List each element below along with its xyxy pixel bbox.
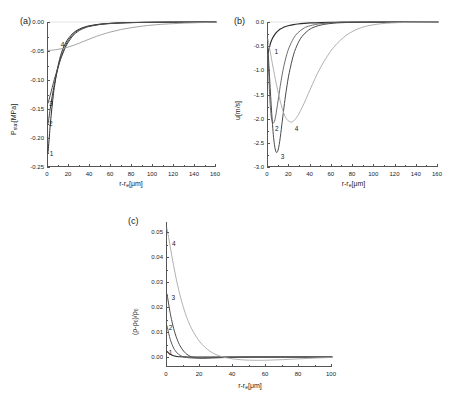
panel-c-ytick-minor bbox=[166, 270, 168, 271]
panel-a-xtick-minor bbox=[100, 165, 101, 167]
panel-b-series-3 bbox=[268, 22, 438, 153]
panel-a-xtick-label: 140 bbox=[189, 171, 199, 177]
panel-a-ytick-label: -0.20 bbox=[21, 135, 44, 141]
panel-b-xtick-minor bbox=[278, 165, 279, 167]
panel-a-series-1 bbox=[48, 22, 216, 152]
panel-b-xtick-minor bbox=[405, 165, 406, 167]
panel-b-xtick-mark bbox=[373, 164, 374, 167]
panel-c-xlabel: r-re[μm] bbox=[165, 382, 335, 390]
panel-a-ytick-label: -0.25 bbox=[21, 164, 44, 170]
panel-c-xtick-label: 0 bbox=[164, 371, 167, 377]
panel-a-ytick-minor bbox=[47, 95, 49, 96]
panel-a-xtick-minor bbox=[205, 165, 206, 167]
panel-a-xtick-mark bbox=[152, 164, 153, 167]
panel-b-xtick-label: 20 bbox=[285, 171, 292, 177]
panel-b: (b) u[m/s] r-re[μm] 0.0-0.5-1.0-1.5-2.0-… bbox=[226, 0, 453, 200]
panel-b-xtick-mark bbox=[310, 164, 311, 167]
panel-b-xtick-label: 100 bbox=[368, 171, 378, 177]
panel-b-xtick-minor bbox=[341, 165, 342, 167]
panel-c-ytick-mark bbox=[166, 282, 169, 283]
panel-b-xtick-mark bbox=[267, 164, 268, 167]
panel-a-xtick-minor bbox=[121, 165, 122, 167]
panel-b-ytick-mark bbox=[267, 167, 270, 168]
panel-b-xtick-label: 120 bbox=[389, 171, 399, 177]
panel-a-series-2 bbox=[48, 22, 216, 123]
panel-b-curve-label-2: 2 bbox=[275, 125, 279, 132]
panel-a-ytick-mark bbox=[47, 80, 50, 81]
panel-c-series-1 bbox=[167, 352, 332, 358]
panel-b-xtick-label: 60 bbox=[327, 171, 334, 177]
panel-c-ytick-mark bbox=[166, 257, 169, 258]
panel-c-curves bbox=[167, 222, 332, 367]
panel-b-xtick-mark bbox=[331, 164, 332, 167]
panel-a-xtick-minor bbox=[79, 165, 80, 167]
panel-a: (a) Pstat[MPa] r-re[μm] 0.00-0.05-0.10-0… bbox=[0, 0, 226, 200]
panel-b-ytick-minor bbox=[267, 58, 269, 59]
panel-b-ytick-label: -2.5 bbox=[241, 140, 264, 146]
panel-a-xtick-label: 40 bbox=[86, 171, 93, 177]
panel-b-xlabel: r-re[μm] bbox=[266, 180, 441, 188]
panel-c-xtick-mark bbox=[166, 364, 167, 367]
panel-a-curves bbox=[48, 22, 216, 167]
panel-b-ytick-label: -3.0 bbox=[241, 164, 264, 170]
panel-b-curves bbox=[268, 22, 438, 167]
panel-a-xtick-mark bbox=[68, 164, 69, 167]
panel-b-xtick-minor bbox=[299, 165, 300, 167]
panel-b-curve-label-1: 1 bbox=[274, 48, 278, 55]
panel-a-xtick-minor bbox=[142, 165, 143, 167]
panel-c-xtick-mark bbox=[298, 364, 299, 367]
panel-c-ytick-minor bbox=[166, 245, 168, 246]
panel-c-ytick-mark bbox=[166, 232, 169, 233]
panel-a-ylabel: Pstat[MPa] bbox=[10, 104, 18, 135]
panel-b-xtick-mark bbox=[437, 164, 438, 167]
panel-c-curve-label-1: 1 bbox=[169, 349, 173, 356]
panel-c-xtick-label: 20 bbox=[196, 371, 203, 377]
panel-a-curve-label-3: 3 bbox=[49, 100, 53, 107]
panel-a-xlabel: r-re[μm] bbox=[46, 180, 216, 188]
panel-a-ytick-label: -0.05 bbox=[21, 48, 44, 54]
panel-a-xtick-mark bbox=[47, 164, 48, 167]
panel-a-ytick-label: -0.15 bbox=[21, 106, 44, 112]
panel-c-curve-label-2: 2 bbox=[169, 324, 173, 331]
panel-a-ytick-mark bbox=[47, 167, 50, 168]
panel-c-ytick-label: 0.03 bbox=[140, 279, 163, 285]
panel-c-tag: (c) bbox=[128, 216, 139, 226]
panel-b-series-2 bbox=[268, 22, 438, 123]
panel-a-curve-label-4: 4 bbox=[61, 41, 65, 48]
panel-a-xtick-label: 20 bbox=[65, 171, 72, 177]
panel-c-plot-area bbox=[166, 222, 331, 367]
panel-b-curve-label-4: 4 bbox=[295, 125, 299, 132]
panel-a-xtick-label: 120 bbox=[168, 171, 178, 177]
panel-c-ytick-minor bbox=[166, 345, 168, 346]
panel-b-xtick-label: 0 bbox=[265, 171, 268, 177]
panel-c-ytick-minor bbox=[166, 320, 168, 321]
panel-c-xtick-minor bbox=[315, 365, 316, 367]
panel-c-ytick-label: 0.02 bbox=[140, 304, 163, 310]
panel-c-ytick-label: 0.01 bbox=[140, 329, 163, 335]
panel-b-ytick-mark bbox=[267, 95, 270, 96]
panel-c-ytick-label: 0.04 bbox=[140, 254, 163, 260]
panel-a-plot-area bbox=[47, 22, 215, 167]
panel-b-ytick-label: -1.5 bbox=[241, 92, 264, 98]
panel-c-xtick-label: 60 bbox=[262, 371, 269, 377]
panel-a-ytick-mark bbox=[47, 138, 50, 139]
panel-a-xtick-minor bbox=[163, 165, 164, 167]
panel-b-ytick-mark bbox=[267, 143, 270, 144]
panel-b-ytick-label: -2.0 bbox=[241, 116, 264, 122]
panel-b-ytick-minor bbox=[267, 131, 269, 132]
panel-c-ytick-mark bbox=[166, 357, 169, 358]
panel-a-xtick-label: 0 bbox=[45, 171, 48, 177]
panel-c-xtick-label: 80 bbox=[295, 371, 302, 377]
panel-b-ytick-mark bbox=[267, 22, 270, 23]
panel-b-xtick-label: 80 bbox=[349, 171, 356, 177]
panel-c-ytick-minor bbox=[166, 295, 168, 296]
panel-c-xtick-mark bbox=[199, 364, 200, 367]
panel-a-xtick-label: 60 bbox=[107, 171, 114, 177]
panel-c-curve-label-4: 4 bbox=[172, 240, 176, 247]
panel-b-ytick-label: -1.0 bbox=[241, 67, 264, 73]
panel-a-xtick-minor bbox=[58, 165, 59, 167]
panel-c-series-4 bbox=[167, 228, 332, 360]
panel-a-xtick-minor bbox=[184, 165, 185, 167]
panel-b-ytick-mark bbox=[267, 119, 270, 120]
panel-b-ylabel: u[m/s] bbox=[234, 101, 241, 120]
